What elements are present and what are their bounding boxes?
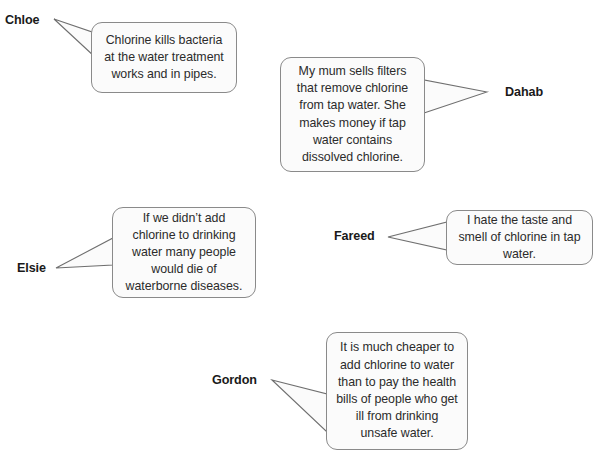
speech-bubble-elsie-text: If we didn’t add chlorine to drinking wa… xyxy=(122,210,246,296)
speech-bubble-diagram: Chloe Chlorine kills bacteria at the wat… xyxy=(0,0,598,461)
speaker-name-fareed: Fareed xyxy=(334,229,375,243)
tail-gordon xyxy=(272,380,327,432)
speech-bubble-dahab: My mum sells filters that remove chlorin… xyxy=(280,57,425,172)
speech-bubble-chloe: Chlorine kills bacteria at the water tre… xyxy=(91,22,237,93)
speaker-name-dahab: Dahab xyxy=(505,85,543,99)
tail-chloe xyxy=(54,19,95,57)
speech-bubble-gordon-text: It is much cheaper to add chlorine to wa… xyxy=(336,339,458,442)
speaker-name-chloe: Chloe xyxy=(5,13,39,27)
speech-bubble-chloe-text: Chlorine kills bacteria at the water tre… xyxy=(101,32,227,84)
speech-bubble-dahab-text: My mum sells filters that remove chlorin… xyxy=(290,63,415,166)
speaker-name-gordon: Gordon xyxy=(212,373,257,387)
speech-bubble-elsie: If we didn’t add chlorine to drinking wa… xyxy=(112,207,256,298)
speech-bubble-fareed-text: I hate the taste and smell of chlorine i… xyxy=(456,212,583,264)
tail-fareed xyxy=(388,222,447,250)
speech-bubble-fareed: I hate the taste and smell of chlorine i… xyxy=(446,210,593,265)
tail-elsie xyxy=(56,238,113,268)
tail-dahab xyxy=(424,80,487,113)
speech-bubble-gordon: It is much cheaper to add chlorine to wa… xyxy=(326,332,468,450)
speaker-name-elsie: Elsie xyxy=(17,261,46,275)
